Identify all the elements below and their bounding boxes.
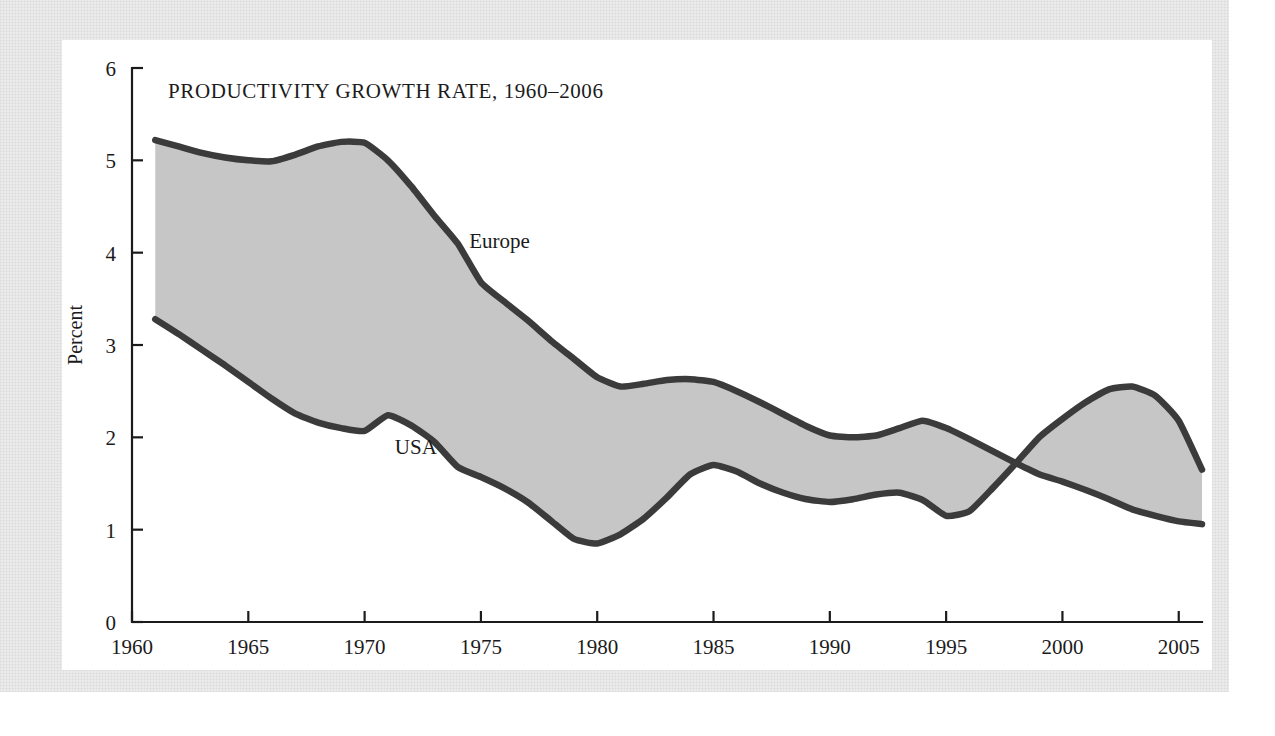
x-axis-tick-marks	[132, 611, 1179, 622]
series-label-usa: USA	[395, 435, 438, 459]
y-axis-tick-labels: 0123456	[106, 57, 117, 635]
y-axis-title: Percent	[64, 305, 86, 365]
x-tick-label-1980: 1980	[576, 635, 618, 659]
x-tick-label-1995: 1995	[925, 635, 967, 659]
y-tick-label-6: 6	[106, 57, 117, 81]
y-tick-label-0: 0	[106, 611, 117, 635]
y-axis-tick-marks	[132, 68, 143, 622]
y-tick-label-2: 2	[106, 426, 117, 450]
page-root: 1960196519701975198019851990199520002005…	[0, 0, 1275, 736]
x-tick-label-1970: 1970	[344, 635, 386, 659]
series-label-europe: Europe	[469, 229, 530, 253]
y-tick-label-3: 3	[106, 334, 117, 358]
x-tick-label-2005: 2005	[1158, 635, 1200, 659]
y-tick-label-1: 1	[106, 519, 117, 543]
x-tick-label-1990: 1990	[809, 635, 851, 659]
x-tick-label-2000: 2000	[1041, 635, 1083, 659]
y-tick-label-4: 4	[106, 242, 117, 266]
figure-card: 1960196519701975198019851990199520002005…	[62, 40, 1212, 670]
x-tick-label-1975: 1975	[460, 635, 502, 659]
y-tick-label-5: 5	[106, 149, 117, 173]
x-tick-label-1965: 1965	[227, 635, 269, 659]
chart-title: PRODUCTIVITY GROWTH RATE, 1960–2006	[168, 79, 604, 103]
x-tick-label-1985: 1985	[693, 635, 735, 659]
x-tick-label-1960: 1960	[111, 635, 153, 659]
productivity-growth-chart: 1960196519701975198019851990199520002005…	[62, 40, 1212, 670]
x-axis-tick-labels: 1960196519701975198019851990199520002005	[111, 635, 1200, 659]
